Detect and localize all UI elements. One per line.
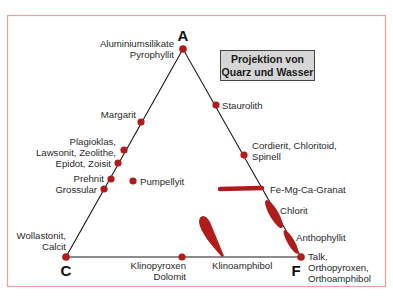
label-margarit: Margarit xyxy=(101,109,137,120)
point-a xyxy=(179,45,187,53)
corner-a-label: A xyxy=(178,27,189,44)
label-spinell: Spinell xyxy=(252,151,281,162)
label-anthophyllit: Anthophyllit xyxy=(296,232,346,243)
label-cordierit: Cordierit, Chloritoid, xyxy=(252,140,337,151)
point-cordierit xyxy=(240,151,247,158)
label-pumpellyit: Pumpellyit xyxy=(140,176,185,187)
label-pyrophyllit: Pyrophyllit xyxy=(130,49,175,60)
label-talk: Talk, xyxy=(308,251,328,262)
label-lawsonit: Lawsonit, Zeolithe, xyxy=(36,147,116,158)
label-klinoamphibol: Klinoamphibol xyxy=(212,260,272,271)
projection-title-box: Projektion von Quarz und Wasser xyxy=(221,51,315,81)
point-margarit xyxy=(137,118,144,125)
point-epidot xyxy=(114,159,121,166)
label-chlorit: Chlorit xyxy=(280,205,308,216)
label-orthoamphibol: Orthoamphibol xyxy=(308,273,371,284)
point-plagioklas xyxy=(120,146,127,153)
point-c xyxy=(62,253,70,261)
label-plagioklas: Plagioklas, xyxy=(70,136,116,147)
label-calcit: Calcit xyxy=(42,241,66,252)
label-wollastonit: Wollastonit, xyxy=(17,230,66,241)
label-aluminiumsilikate: Aluminiumsilikate xyxy=(100,38,174,49)
acf-diagram: Projektion von Quarz und Wasser A C F Al… xyxy=(0,0,393,296)
point-grossular xyxy=(100,185,107,192)
label-epidot: Epidot, Zoisit xyxy=(56,158,112,169)
corner-c-label: C xyxy=(61,262,72,279)
point-f xyxy=(297,253,305,261)
point-prehnit xyxy=(107,175,114,182)
label-prehnit: Prehnit xyxy=(74,173,105,184)
title-line-2: Quarz und Wasser xyxy=(222,66,314,78)
label-grossular: Grossular xyxy=(55,184,97,195)
corner-f-label: F xyxy=(291,262,300,279)
label-dolomit: Dolomit xyxy=(153,271,186,282)
point-pumpellyit xyxy=(129,177,136,184)
point-staurolith xyxy=(212,101,219,108)
granat-field xyxy=(220,188,262,189)
title-line-1: Projektion von xyxy=(231,53,304,65)
label-klinopyroxen: Klinopyroxen xyxy=(131,260,186,271)
label-granat: Fe-Mg-Ca-Granat xyxy=(270,184,346,195)
label-staurolith: Staurolith xyxy=(222,100,263,111)
label-orthopyroxen: Orthopyroxen, xyxy=(308,262,369,273)
